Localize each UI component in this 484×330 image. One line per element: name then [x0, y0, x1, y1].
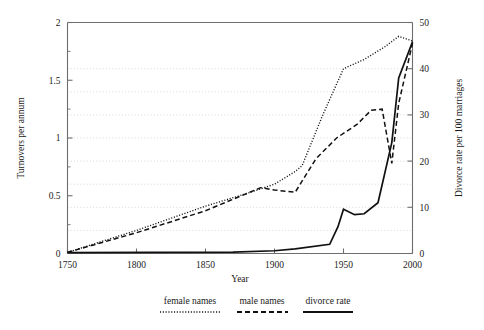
ticklabels-bottom: 175018001850190019502000: [58, 260, 422, 270]
ticklabel-bottom: 1850: [196, 260, 215, 270]
ticklabel-right: 40: [420, 64, 430, 74]
legend-label-divorce-rate: divorce rate: [305, 296, 350, 306]
ticklabel-bottom: 2000: [403, 260, 422, 270]
ticklabel-right: 30: [420, 110, 430, 120]
ticklabel-left: 1: [56, 133, 61, 143]
ticklabel-bottom: 1800: [127, 260, 146, 270]
ticklabels-right: 01020304050: [420, 18, 430, 259]
ticklabel-left: 0: [56, 249, 61, 259]
ticklabel-left: 1.5: [49, 76, 61, 86]
ticklabel-left: 2: [56, 18, 61, 28]
y-axis-left-label: Turnovers per annum: [16, 97, 26, 179]
legend-label-male-names: male names: [239, 296, 284, 306]
chart-legend: female names male names divorce rate: [160, 296, 353, 312]
series-male-names: [68, 43, 413, 252]
ticklabel-bottom: 1900: [265, 260, 284, 270]
gridlines: [68, 69, 413, 231]
ticks-left: [68, 23, 73, 254]
ticklabel-right: 0: [420, 249, 425, 259]
ticklabel-bottom: 1750: [58, 260, 77, 270]
ticklabel-right: 50: [420, 18, 430, 28]
series-divorce-rate: [68, 42, 413, 253]
ticklabel-right: 20: [420, 157, 430, 167]
chart-figure: 00.511.52 01020304050 175018001850190019…: [0, 0, 484, 330]
x-axis-label: Year: [231, 274, 249, 284]
ticklabels-left: 00.511.52: [49, 18, 61, 259]
ticklabel-bottom: 1950: [334, 260, 353, 270]
chart-svg: 00.511.52 01020304050 175018001850190019…: [0, 0, 484, 330]
y-axis-right-label: Divorce rate per 100 marriages: [454, 79, 464, 197]
ticklabel-left: 0.5: [49, 191, 61, 201]
ticklabel-right: 10: [420, 203, 430, 213]
legend-label-female-names: female names: [164, 296, 217, 306]
